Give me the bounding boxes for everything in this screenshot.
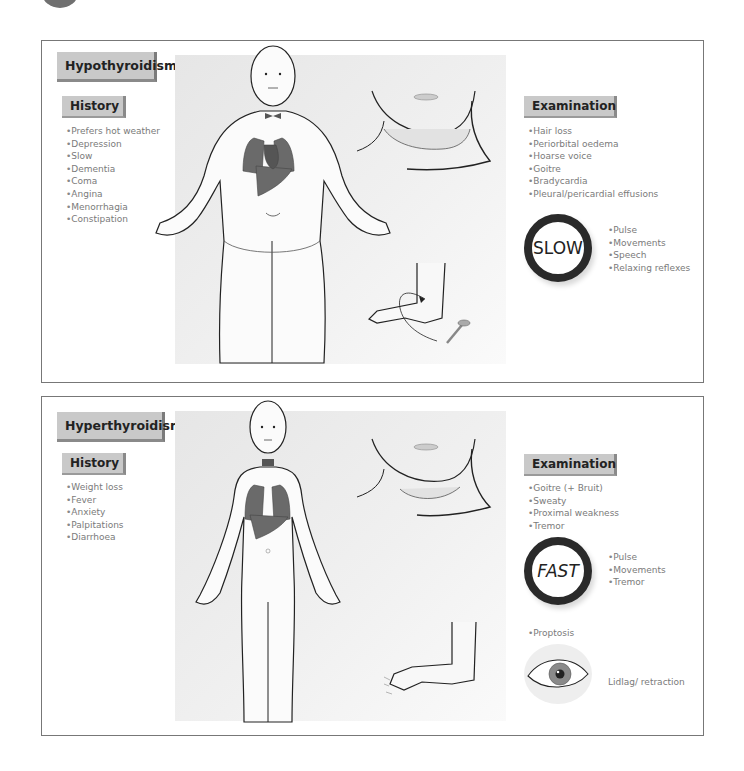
history-item: Weight loss	[66, 481, 124, 494]
history-item: Palpitations	[66, 519, 124, 532]
history-item: Angina	[66, 188, 160, 201]
proptosis-list: Proptosis	[528, 627, 574, 640]
examination-item: Bradycardia	[528, 175, 658, 188]
hyperthyroidism-panel: Hyperthyroidism History Weight loss Feve…	[41, 396, 704, 736]
slow-item: Speech	[608, 249, 690, 262]
slow-item: Relaxing reflexes	[608, 262, 690, 275]
fast-item: Movements	[608, 564, 666, 577]
history-item: Menorrhagia	[66, 201, 160, 214]
history-item: Prefers hot weather	[66, 125, 160, 138]
fast-badge: FAST	[524, 537, 592, 605]
examination-item: Goitre (+ Bruit)	[528, 482, 619, 495]
slow-item: Pulse	[608, 224, 690, 237]
reflex-arm-icon	[367, 263, 487, 353]
slow-items-list: Pulse Movements Speech Relaxing reflexes	[608, 224, 690, 274]
neck-goitre-icon	[372, 91, 522, 181]
examination-item: Sweaty	[528, 495, 619, 508]
history-list: Weight loss Fever Anxiety Palpitations D…	[66, 481, 124, 544]
examination-header: Examination	[524, 454, 617, 476]
proptosis-item: Proptosis	[528, 627, 574, 640]
history-item: Coma	[66, 175, 160, 188]
examination-item: Goitre	[528, 163, 658, 176]
examination-list: Goitre (+ Bruit) Sweaty Proximal weaknes…	[528, 482, 619, 532]
lidlag-label: Lidlag/ retraction	[608, 676, 685, 689]
hypothyroidism-title: Hypothyroidism	[57, 52, 157, 82]
fast-items-list: Pulse Movements Tremor	[608, 551, 666, 589]
examination-list: Hair loss Periorbital oedema Hoarse voic…	[528, 125, 658, 201]
examination-item: Periorbital oedema	[528, 138, 658, 151]
examination-item: Proximal weakness	[528, 507, 619, 520]
history-item: Constipation	[66, 213, 160, 226]
examination-item: Hair loss	[528, 125, 658, 138]
section-number-circle	[42, 0, 78, 8]
tremor-arm-icon	[382, 622, 492, 702]
slow-item: Movements	[608, 237, 690, 250]
history-list: Prefers hot weather Depression Slow Deme…	[66, 125, 160, 226]
history-header: History	[62, 96, 126, 118]
history-item: Dementia	[66, 163, 160, 176]
neck-goitre-icon	[372, 439, 522, 529]
examination-item: Pleural/pericardial effusions	[528, 188, 658, 201]
examination-item: Hoarse voice	[528, 150, 658, 163]
examination-item: Tremor	[528, 520, 619, 533]
history-item: Fever	[66, 494, 124, 507]
fast-item: Tremor	[608, 576, 666, 589]
eye-icon	[520, 642, 600, 712]
history-item: Depression	[66, 138, 160, 151]
history-item: Anxiety	[66, 506, 124, 519]
hyperthyroidism-title: Hyperthyroidism	[57, 412, 165, 442]
history-item: Diarrhoea	[66, 531, 124, 544]
history-header: History	[62, 453, 126, 475]
examination-header: Examination	[524, 96, 617, 118]
hypothyroidism-panel: Hypothyroidism History Prefers hot weath…	[41, 40, 704, 383]
history-item: Slow	[66, 150, 160, 163]
fast-item: Pulse	[608, 551, 666, 564]
slow-badge: SLOW	[524, 214, 592, 282]
